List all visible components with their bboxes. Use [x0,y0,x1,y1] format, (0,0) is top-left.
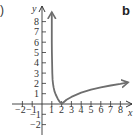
x-tick-label: 8 [118,104,123,115]
left-paren-label: ) [0,3,4,17]
y-tick-labels: 8 7 6 5 4 3 2 1 −1 −2 [30,16,41,130]
x-tick-label: 7 [108,104,113,115]
x-axis-label: x [127,107,133,118]
x-tick-label: 1 [49,104,54,115]
x-tick-label: 2 [59,104,64,115]
x-tick-label: 4 [79,104,84,115]
y-ticks [42,22,46,125]
x-tick-label: 6 [99,104,104,115]
graph-canvas: ) b x y −2 −1 1 2 3 4 5 6 7 8 [0,0,139,135]
x-tick-label: 3 [69,104,74,115]
x-tick-label: −2 [15,104,26,115]
y-tick-label: 1 [34,88,39,99]
y-tick-label: −2 [30,119,41,130]
x-tick-label: 5 [89,104,94,115]
part-label: b [122,3,130,18]
function-curve-left-branch [52,12,62,104]
function-curve-right-branch [62,82,129,104]
y-axis-label: y [31,3,37,14]
